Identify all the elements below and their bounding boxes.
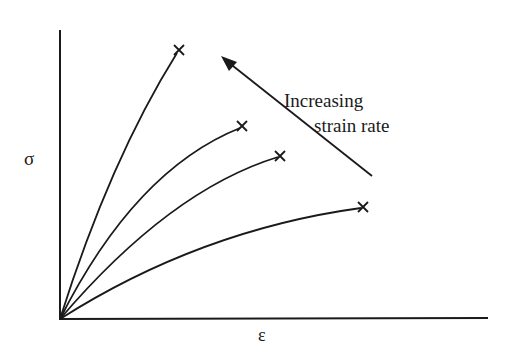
x-axis xyxy=(59,318,488,319)
y-axis-label: σ xyxy=(24,148,34,170)
x-marker-icon xyxy=(275,151,285,161)
x-axis-label: ε xyxy=(258,325,266,346)
curve-high-rate xyxy=(60,128,240,319)
annotation-line-1: Increasing xyxy=(284,90,363,112)
curve-medium-rate xyxy=(60,157,278,319)
x-marker-icon xyxy=(358,202,368,212)
x-marker-icon xyxy=(174,45,184,55)
annotation-line-2: strain rate xyxy=(314,115,389,137)
x-marker-icon xyxy=(237,121,247,131)
curve-lowest-rate xyxy=(60,208,361,319)
curve-highest-rate xyxy=(60,53,177,319)
stress-strain-diagram xyxy=(0,0,511,354)
